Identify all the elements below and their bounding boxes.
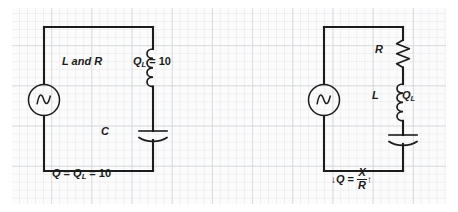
- circuit-diagram-figure: L and R QL = 10 C Q = QL = 10 R L QL ↓Q …: [0, 0, 458, 212]
- q-formula-fraction: XR: [357, 167, 367, 191]
- left-inductor-label: L and R: [62, 56, 102, 67]
- right-inductor-q-label: QL: [402, 90, 415, 101]
- left-inductor-q-label: QL = 10: [133, 56, 171, 67]
- up-arrow-icon: ↑: [367, 174, 372, 185]
- left-circuit-caption: Q = QL = 10: [52, 168, 111, 179]
- circuit-schematics: [0, 0, 458, 212]
- left-capacitor-label: C: [101, 126, 109, 137]
- right-ac-source-sine: [317, 95, 330, 104]
- right-inductor-label: L: [372, 90, 379, 101]
- left-ac-source-sine: [37, 95, 50, 104]
- right-resistor-label: R: [375, 44, 383, 55]
- right-resistor-zigzag: [397, 40, 410, 68]
- right-circuit-caption: ↓Q = XR↑: [331, 168, 372, 192]
